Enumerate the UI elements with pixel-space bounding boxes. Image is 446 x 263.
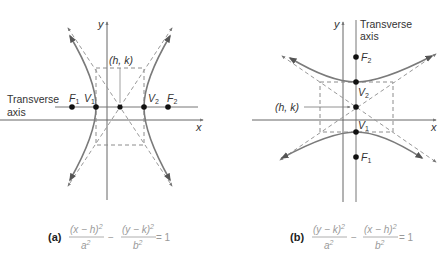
- eq-a-rhs: = 1: [156, 232, 171, 243]
- equation-b: (b) (y − k)2 a2 − (x − h)2 b2 = 1: [290, 223, 414, 251]
- eq-a-term1-numerator: (x − h)2: [70, 223, 103, 235]
- eq-a-term2-denominator: b2: [133, 239, 143, 251]
- center-point: [117, 104, 122, 109]
- transverse-axis-label-b-2: axis: [360, 30, 379, 42]
- eq-a-term2-numerator: (y − k)2: [122, 223, 154, 235]
- vertex-1-label: V1: [84, 92, 95, 105]
- vertex-1-label-b: V1: [358, 119, 369, 132]
- eq-b-term1-numerator: (y − k)2: [313, 223, 345, 235]
- focus-1-label: F1: [69, 92, 79, 105]
- panel-a: y x Transverse axis F1 V1 V2 F2 (h, k) (…: [0, 18, 203, 251]
- focus-1-point: [69, 104, 75, 110]
- transverse-axis-label-b: Transverse: [360, 18, 412, 30]
- vertex-2-label: V2: [148, 92, 159, 105]
- y-axis-label-b: y: [333, 18, 341, 30]
- vertex-2-point: [141, 104, 147, 110]
- equation-a: (a) (x − h)2 a2 − (y − k)2 b2 = 1: [48, 223, 171, 251]
- eq-b-term2-denominator: b2: [375, 239, 385, 251]
- x-axis-label: x: [195, 121, 202, 133]
- eq-a-term1-denominator: a2: [81, 239, 91, 251]
- vertex-2-point-b: [353, 79, 359, 85]
- hyperbola-lower-branch: [282, 132, 422, 158]
- x-axis-label-b: x: [430, 121, 437, 133]
- center-label: (h, k): [109, 54, 133, 66]
- eq-b-rhs: = 1: [399, 232, 414, 243]
- center-point-b: [353, 104, 359, 110]
- panel-a-label: (a): [48, 231, 62, 243]
- hyperbola-figure: y x Transverse axis F1 V1 V2 F2 (h, k) (…: [0, 0, 446, 263]
- focus-2-label: F2: [167, 92, 177, 105]
- eq-a-operator: −: [108, 232, 114, 243]
- focus-2-point: [165, 104, 171, 110]
- transverse-axis-label: Transverse: [7, 93, 59, 105]
- focus-2-label-b: F2: [361, 51, 371, 64]
- transverse-axis-label-2: axis: [7, 106, 26, 118]
- eq-b-term2-numerator: (x − h)2: [364, 223, 397, 235]
- focus-1-label-b: F1: [361, 151, 371, 164]
- eq-b-term1-denominator: a2: [324, 239, 334, 251]
- vertex-1-point: [93, 104, 99, 110]
- panel-b-label: (b): [290, 231, 304, 243]
- focus-1-point-b: [353, 154, 359, 160]
- vertex-2-label-b: V2: [358, 86, 369, 99]
- panel-b: y Transverse axis x (h, k) F2 V2 V1 F1 (…: [252, 18, 437, 251]
- focus-2-point-b: [353, 54, 359, 60]
- y-axis-label: y: [97, 18, 105, 30]
- eq-b-operator: −: [351, 232, 357, 243]
- center-label-b: (h, k): [275, 101, 299, 113]
